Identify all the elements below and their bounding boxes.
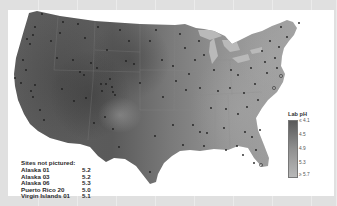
site-row: Virgin Islands 015.1: [21, 193, 91, 200]
ph-legend: Lab pH ≤ 4.1 4.5 4.9 5.3 ≥ 5.7: [288, 111, 334, 177]
legend-tick: 4.9: [299, 146, 306, 151]
sites-not-pictured: Sites not pictured: Alaska 015.2 Alaska …: [21, 160, 91, 200]
site-value: 5.1: [82, 193, 91, 200]
legend-title: Lab pH: [288, 111, 307, 117]
legend-tick: 4.5: [299, 132, 306, 137]
site-name: Virgin Islands 01: [21, 193, 82, 200]
legend-tick: ≤ 4.1: [299, 118, 310, 123]
legend-color-bar: [288, 120, 298, 178]
legend-tick: ≥ 5.7: [299, 172, 310, 177]
legend-tick: 5.3: [299, 160, 306, 165]
